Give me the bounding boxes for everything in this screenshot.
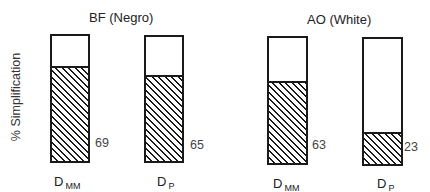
bar-ao-dmm [267,36,308,165]
bar-ao-dp [362,37,403,166]
x-label-sub: MM [65,181,80,191]
x-label-sub: P [168,181,174,191]
x-label-main: D [273,176,282,191]
value-label-bf-dmm: 69 [95,136,109,150]
value-label-bf-dp: 65 [190,138,204,152]
group-title-ao: AO (White) [307,12,371,27]
x-label-bf-dmm: DMM [54,174,80,189]
value-label-ao-dmm: 63 [312,138,326,152]
x-label-ao-dmm: DMM [273,176,299,191]
bar-bf-dp-fill [146,75,182,161]
bar-bf-dp [144,35,184,163]
x-label-main: D [377,176,386,191]
bar-bf-dmm-fill [52,66,88,161]
x-label-sub: MM [284,183,299,192]
y-axis-label: % Simplification [9,47,23,147]
bar-bf-dmm [50,34,90,163]
x-label-sub: P [388,183,394,192]
group-title-bf: BF (Negro) [89,10,153,25]
bar-ao-dp-fill [364,132,401,164]
x-label-bf-dp: DP [157,174,174,189]
bar-ao-dmm-fill [269,81,306,163]
x-label-main: D [157,174,166,189]
x-label-ao-dp: DP [377,176,394,191]
x-label-main: D [54,174,63,189]
value-label-ao-dp: 23 [404,140,418,154]
